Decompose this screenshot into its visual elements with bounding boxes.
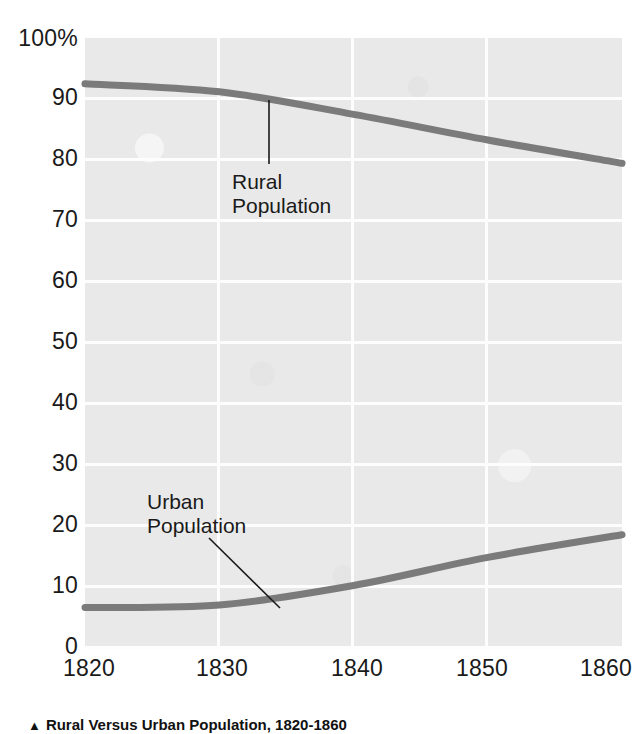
caption-marker-icon: ▲ [28,718,41,733]
caption-text: Rural Versus Urban Population, 1820-1860 [46,716,347,733]
figure-caption: ▲Rural Versus Urban Population, 1820-186… [28,716,347,734]
urban-leader-line [0,0,644,734]
chart-figure: 100% 90 80 70 60 50 40 30 20 10 0 1820 1… [0,0,644,734]
annotation-label-urban: Urban Population [147,490,246,538]
